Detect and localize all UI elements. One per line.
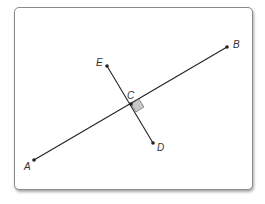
point-a — [32, 158, 36, 162]
point-c — [129, 102, 133, 106]
label-e: E — [96, 57, 103, 68]
point-d — [151, 141, 155, 145]
point-e — [105, 64, 109, 68]
label-c: C — [127, 90, 135, 101]
point-b — [225, 45, 229, 49]
geometry-diagram: A B C D E — [0, 0, 265, 204]
label-d: D — [157, 142, 164, 153]
label-b: B — [233, 39, 240, 50]
label-a: A — [23, 161, 31, 172]
